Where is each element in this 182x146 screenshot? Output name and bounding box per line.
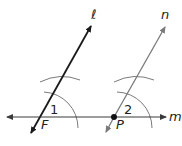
label-point-p: P xyxy=(116,117,124,132)
line-n xyxy=(114,27,165,117)
line-l xyxy=(40,26,91,117)
label-line-m: m xyxy=(169,109,182,124)
label-angle-1: 1 xyxy=(50,102,58,117)
label-angle-2: 2 xyxy=(124,102,132,117)
geometry-diagram: ℓ n m F P 1 2 xyxy=(0,0,182,146)
label-point-f: F xyxy=(41,117,49,132)
label-line-l: ℓ xyxy=(90,7,96,22)
line-l-lower xyxy=(31,117,40,133)
label-line-n: n xyxy=(161,7,169,22)
